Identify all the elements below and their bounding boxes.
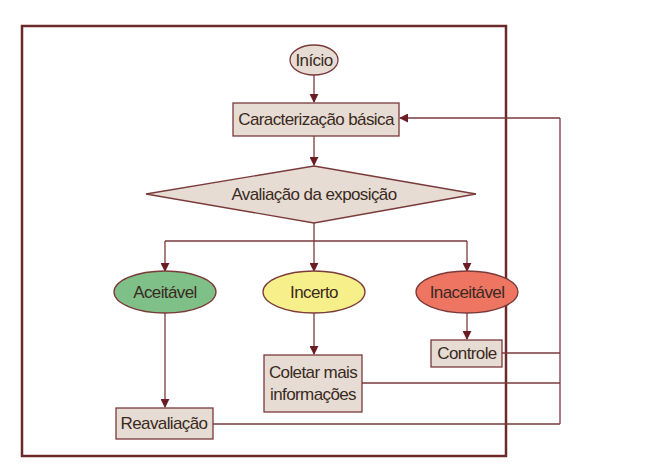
node-reassessment: Reavaliação [116, 408, 213, 439]
exposure-assessment-label: Avaliação da exposição [231, 185, 396, 204]
uncertain-label: Incerto [290, 283, 338, 302]
collect-info-label-line1: Coletar mais [269, 363, 357, 382]
node-basic-characterization: Caracterização básica [233, 103, 399, 136]
node-collect-info: Coletar mais informações [264, 355, 362, 412]
node-acceptable: Aceitável [114, 271, 216, 313]
acceptable-label: Aceitável [133, 283, 197, 302]
reassessment-label: Reavaliação [121, 414, 208, 433]
flowchart: Início Caracterização básica Avaliação d… [0, 0, 667, 471]
node-start: Início [290, 45, 338, 75]
unacceptable-label: Inaceitável [430, 283, 505, 302]
control-label: Controle [437, 344, 497, 363]
node-exposure-assessment: Avaliação da exposição [146, 166, 476, 223]
node-uncertain: Incerto [263, 271, 365, 313]
collect-info-label-line2: informações [270, 385, 356, 404]
start-label: Início [295, 51, 332, 70]
basic-characterization-label: Caracterização básica [238, 110, 395, 129]
node-control: Controle [431, 340, 502, 367]
node-unacceptable: Inaceitável [416, 271, 518, 313]
